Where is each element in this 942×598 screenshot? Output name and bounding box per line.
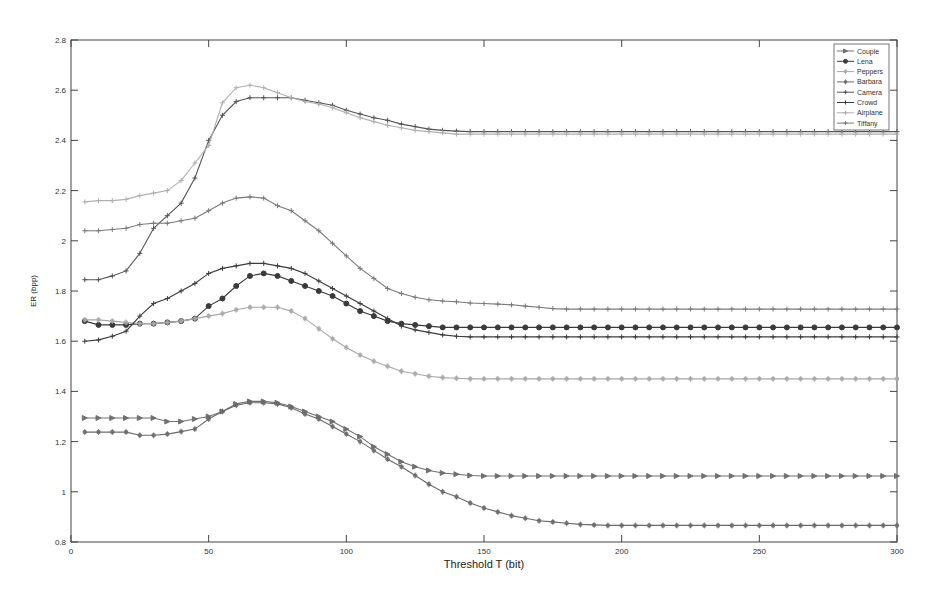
y-tick-label: 2.8 xyxy=(55,36,67,45)
y-tick-label: 0.8 xyxy=(55,538,67,547)
y-tick-label: 1.2 xyxy=(55,438,67,447)
y-axis-label: ER (bpp) xyxy=(29,275,38,307)
plot-area xyxy=(71,40,897,542)
x-tick-label: 200 xyxy=(615,547,629,556)
legend-label: Lena xyxy=(857,58,873,65)
legend: CoupleLenaPeppersBarbaraCameraCrowdAirpl… xyxy=(834,44,889,130)
y-tick-label: 2 xyxy=(62,237,67,246)
legend-label: Airplane xyxy=(857,109,883,117)
x-tick-label: 100 xyxy=(340,547,354,556)
y-tick-label: 2.6 xyxy=(55,86,67,95)
legend-label: Tiffany xyxy=(857,120,878,128)
line-chart: 0501001502002503000.811.21.41.61.822.22.… xyxy=(0,0,942,598)
x-axis-label: Threshold T (bit) xyxy=(444,558,524,570)
y-tick-label: 1.8 xyxy=(55,287,67,296)
legend-label: Camera xyxy=(857,89,882,96)
y-tick-label: 1 xyxy=(62,488,67,497)
x-tick-label: 300 xyxy=(890,547,904,556)
legend-label: Peppers xyxy=(857,68,884,76)
legend-label: Couple xyxy=(857,48,879,56)
legend-label: Barbara xyxy=(857,78,882,85)
y-tick-label: 1.4 xyxy=(55,387,67,396)
x-tick-label: 250 xyxy=(753,547,767,556)
x-tick-label: 50 xyxy=(204,547,213,556)
y-tick-label: 2.4 xyxy=(55,136,67,145)
x-tick-label: 150 xyxy=(477,547,491,556)
y-tick-label: 1.6 xyxy=(55,337,67,346)
legend-label: Crowd xyxy=(857,99,877,106)
x-tick-label: 0 xyxy=(69,547,74,556)
y-tick-label: 2.2 xyxy=(55,187,67,196)
